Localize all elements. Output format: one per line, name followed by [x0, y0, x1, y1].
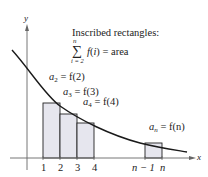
sum-lower: i = 2 [71, 58, 84, 65]
x-axis-label: x [197, 153, 201, 162]
label-an: an = f(n) [149, 122, 185, 134]
tick-n-minus-1: n − 1 [132, 163, 155, 174]
tick-1: 1 [41, 163, 46, 174]
x-axis-arrow-icon [189, 156, 196, 160]
y-axis-arrow-icon [25, 24, 29, 31]
inscribed-rectangles [43, 103, 162, 158]
caption-title: Inscribed rectangles: [72, 28, 159, 39]
tick-n: n [160, 163, 165, 174]
y-axis-label: y [24, 14, 28, 23]
tick-3: 3 [75, 163, 80, 174]
tick-2: 2 [58, 163, 63, 174]
tick-4: 4 [92, 163, 97, 174]
sum-symbol: ∑ [72, 44, 82, 58]
sum-expression: f(i) = area [87, 47, 129, 58]
label-a4: a4 = f(4) [83, 97, 119, 109]
label-a2: a2 = f(2) [49, 72, 85, 84]
